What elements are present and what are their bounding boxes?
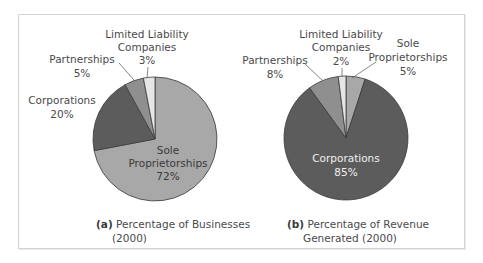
caption-a-line1: Percentage of Businesses xyxy=(116,218,250,230)
label-sole-a-line2: Proprietorships xyxy=(128,157,207,169)
label-corporations-b: Corporations xyxy=(312,152,380,164)
label-partnerships-b: Partnerships xyxy=(242,54,307,66)
leader-line-partnerships-b xyxy=(305,64,323,81)
label-llc-b-pct: 2% xyxy=(333,55,350,67)
leader-line-llc-a xyxy=(147,67,148,78)
pie-chart-businesses xyxy=(93,77,217,201)
leader-line-partnerships-a xyxy=(119,63,134,80)
caption-b-line1: Percentage of Revenue xyxy=(307,218,429,230)
label-llc-b-line1: Limited Liability xyxy=(299,28,382,40)
label-sole-b-pct: 5% xyxy=(400,65,417,77)
label-llc-a-pct: 3% xyxy=(139,54,156,66)
label-sole-b-line1: Sole xyxy=(397,37,419,49)
label-sole-b-line2: Proprietorships xyxy=(368,51,447,63)
label-corporations-a-pct: 20% xyxy=(50,108,73,120)
label-llc-a-line1: Limited Liability xyxy=(105,28,188,40)
caption-a-tag: (a) xyxy=(96,218,113,230)
label-partnerships-a: Partnerships xyxy=(49,53,114,65)
label-partnerships-b-pct: 8% xyxy=(267,68,284,80)
label-corporations-a: Corporations xyxy=(28,94,96,106)
label-llc-b-line2: Companies xyxy=(312,41,371,53)
label-sole-a-pct: 72% xyxy=(156,170,179,182)
caption-b-line2: Generated (2000) xyxy=(287,231,429,245)
caption-a-line2: (2000) xyxy=(96,231,250,245)
pie-chart-revenue xyxy=(284,76,408,200)
label-partnerships-a-pct: 5% xyxy=(74,67,91,79)
caption-b: (b) Percentage of Revenue Generated (200… xyxy=(287,217,429,245)
label-corporations-b-pct: 85% xyxy=(334,166,357,178)
caption-a: (a) Percentage of Businesses (2000) xyxy=(96,217,250,245)
leader-line-sole-b xyxy=(352,62,376,78)
caption-b-tag: (b) xyxy=(287,218,304,230)
label-llc-a-line2: Companies xyxy=(118,41,177,53)
label-sole-a-line1: Sole xyxy=(157,144,179,156)
